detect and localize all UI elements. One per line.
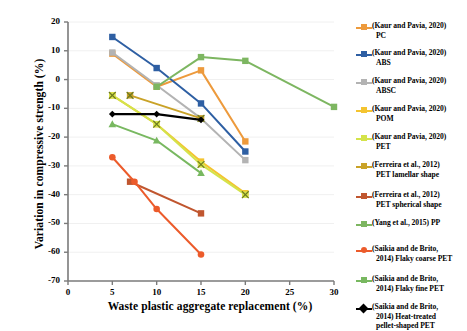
legend-label-line1: (Kaur and Pavia, 2020) bbox=[372, 76, 446, 86]
legend-symbol bbox=[361, 79, 367, 85]
data-point-marker bbox=[153, 65, 159, 71]
data-point-marker bbox=[198, 161, 205, 168]
legend-item-label: (Kaur and Pavia, 2020)PET bbox=[372, 132, 446, 151]
data-point-marker bbox=[153, 206, 160, 213]
legend-item[interactable]: (Kaur and Pavia, 2020)POM bbox=[356, 104, 467, 123]
legend-label-line1: (Yang et al., 2015) PP bbox=[372, 218, 440, 228]
series-8 bbox=[109, 154, 204, 258]
legend-label-line1: (Saikia and de Brito, bbox=[372, 244, 452, 254]
legend-item[interactable]: (Ferreira et al., 2012)PET lamellar shap… bbox=[356, 160, 467, 179]
data-point-marker bbox=[242, 148, 248, 154]
legend-item-label: (Saikia and de Brito,2014) Flaky fine PE… bbox=[372, 274, 444, 293]
legend-marker-icon bbox=[356, 161, 372, 172]
legend-label-line2: 2014) Flaky fine PET bbox=[372, 284, 444, 294]
legend-symbol bbox=[361, 221, 367, 227]
data-point-marker bbox=[198, 67, 204, 73]
legend-label-line1: (Kaur and Pavia, 2020) bbox=[372, 132, 446, 142]
data-point-marker bbox=[153, 121, 160, 128]
legend-item[interactable]: (Kaur and Pavia, 2020)ABSC bbox=[356, 76, 467, 95]
data-point-marker bbox=[131, 178, 138, 185]
legend-item[interactable]: (Saikia and de Brito,2014) Flaky fine PE… bbox=[356, 274, 467, 293]
legend-item-label: (Kaur and Pavia, 2020)ABSC bbox=[372, 76, 446, 95]
legend-item-label: (Ferreira et al., 2012)PET spherical sha… bbox=[372, 190, 442, 209]
legend-item-label: (Saikia and de Brito,2014) Heat-treatedp… bbox=[372, 302, 438, 331]
legend-label-line2: 2014) Heat-treated bbox=[372, 312, 438, 322]
x-tick-label: 25 bbox=[278, 287, 302, 297]
legend-symbol bbox=[359, 303, 369, 313]
x-tick-label: 15 bbox=[189, 287, 213, 297]
data-point-marker bbox=[242, 58, 248, 64]
legend-marker-icon bbox=[356, 133, 372, 144]
legend-label-line2: PC bbox=[372, 31, 446, 41]
legend-item[interactable]: (Kaur and Pavia, 2020)ABS bbox=[356, 48, 467, 67]
data-point-marker bbox=[242, 138, 248, 144]
legend-label-line1: (Ferreira et al., 2012) bbox=[372, 190, 442, 200]
data-point-marker bbox=[198, 54, 204, 60]
x-tick-label: 30 bbox=[322, 287, 346, 297]
series-7 bbox=[153, 54, 337, 110]
legend-item[interactable]: (Saikia and de Brito,2014) Flaky coarse … bbox=[356, 244, 467, 263]
legend-marker-icon bbox=[356, 191, 372, 202]
axis-layer bbox=[64, 22, 334, 285]
legend-label-line1: (Kaur and Pavia, 2020) bbox=[372, 21, 446, 31]
legend-symbol bbox=[361, 135, 367, 141]
legend-item-label: (Saikia and de Brito,2014) Flaky coarse … bbox=[372, 244, 452, 263]
legend-item[interactable]: (Kaur and Pavia, 2020)PET bbox=[356, 132, 467, 151]
data-point-marker bbox=[153, 84, 159, 90]
legend-marker-icon bbox=[356, 303, 372, 314]
data-point-marker bbox=[198, 100, 204, 106]
legend-item[interactable]: (Yang et al., 2015) PP bbox=[356, 218, 467, 230]
x-tick-label: 5 bbox=[100, 287, 124, 297]
y-tick-label: 20 bbox=[34, 16, 60, 26]
legend-item[interactable]: (Ferreira et al., 2012)PET spherical sha… bbox=[356, 190, 467, 209]
legend-symbol bbox=[361, 107, 367, 113]
y-axis-title: Variation in compressive strength (%) bbox=[33, 29, 45, 279]
legend-symbol bbox=[361, 24, 367, 30]
data-point-marker bbox=[153, 111, 160, 118]
data-point-marker bbox=[109, 49, 115, 55]
legend-item-label: (Kaur and Pavia, 2020)ABS bbox=[372, 48, 446, 67]
legend-marker-icon bbox=[356, 275, 372, 286]
chart-figure: 20100-10-20-30-40-50-60-70 051015202530 … bbox=[0, 0, 467, 331]
data-point-marker bbox=[109, 34, 115, 40]
series-layer bbox=[109, 34, 338, 258]
data-point-marker bbox=[127, 92, 134, 99]
legend-symbol bbox=[361, 193, 367, 199]
data-point-marker bbox=[331, 104, 337, 110]
legend-label-line2: PET bbox=[372, 142, 446, 152]
legend-label-line1: (Saikia and de Brito, bbox=[372, 302, 438, 312]
legend-marker-icon bbox=[356, 105, 372, 116]
legend-item-label: (Kaur and Pavia, 2020)POM bbox=[372, 104, 446, 123]
legend-label-line3: pellet-shaped PET bbox=[372, 321, 438, 331]
data-point-marker bbox=[109, 111, 116, 118]
series-line bbox=[157, 57, 334, 107]
data-point-marker bbox=[242, 157, 248, 163]
x-tick-label: 0 bbox=[56, 287, 80, 297]
data-point-marker bbox=[109, 92, 116, 99]
legend-marker-icon bbox=[356, 219, 372, 230]
legend-marker-icon bbox=[356, 22, 372, 33]
x-tick-label: 10 bbox=[145, 287, 169, 297]
series-line bbox=[130, 182, 201, 214]
legend-label-line1: (Kaur and Pavia, 2020) bbox=[372, 104, 446, 114]
data-point-marker bbox=[109, 120, 117, 127]
legend-symbol bbox=[361, 51, 367, 57]
legend-marker-icon bbox=[356, 245, 372, 256]
legend-item[interactable]: (Kaur and Pavia, 2020)PC bbox=[356, 21, 467, 40]
data-point-marker bbox=[198, 251, 205, 258]
legend-marker-icon bbox=[356, 77, 372, 88]
legend-label-line2: ABSC bbox=[372, 86, 446, 96]
series-6 bbox=[127, 179, 204, 217]
legend-label-line1: (Ferreira et al., 2012) bbox=[372, 160, 440, 170]
legend-symbol bbox=[361, 163, 367, 169]
x-axis-title: Waste plastic aggregate replacement (%) bbox=[60, 300, 360, 312]
legend-item-label: (Yang et al., 2015) PP bbox=[372, 218, 440, 228]
legend-label-line2: POM bbox=[372, 114, 446, 124]
data-point-marker bbox=[242, 191, 249, 198]
legend-symbol bbox=[361, 247, 367, 253]
legend-symbol bbox=[361, 277, 367, 283]
legend-item-label: (Ferreira et al., 2012)PET lamellar shap… bbox=[372, 160, 440, 179]
chart-legend: (Kaur and Pavia, 2020)PC(Kaur and Pavia,… bbox=[356, 10, 467, 325]
legend-item-label: (Kaur and Pavia, 2020)PC bbox=[372, 21, 446, 40]
legend-item[interactable]: (Saikia and de Brito,2014) Heat-treatedp… bbox=[356, 302, 467, 331]
